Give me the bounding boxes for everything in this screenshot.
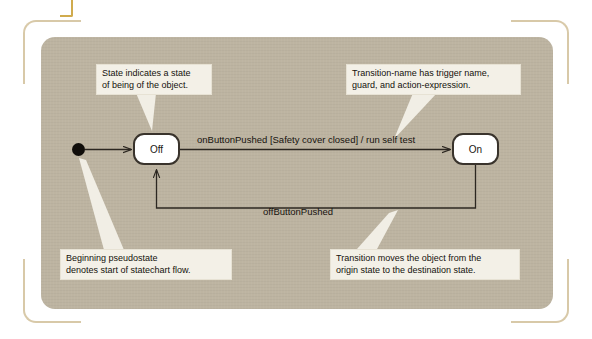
callout-transition-name-description: Transition-name has trigger name, guard,…: [346, 64, 521, 95]
state-label-on: On: [469, 144, 482, 155]
state-node-off[interactable]: Off: [133, 133, 180, 165]
state-label-off: Off: [150, 144, 163, 155]
state-node-on[interactable]: On: [452, 133, 499, 165]
callout-state-description: State indicates a state of being of the …: [96, 64, 212, 95]
transition-label-on-to-off: offButtonPushed: [263, 206, 333, 217]
initial-pseudostate: [72, 143, 85, 156]
figure-page: Off On onButtonPushed [Safety cover clos…: [0, 0, 592, 339]
callout-transition-moves-description: Transition moves the object from the ori…: [330, 249, 520, 280]
callout-pseudostate-description: Beginning pseudostate denotes start of s…: [60, 249, 232, 280]
crop-tick-mark: [60, 0, 73, 17]
transition-label-off-to-on: onButtonPushed [Safety cover closed] / r…: [197, 134, 415, 145]
